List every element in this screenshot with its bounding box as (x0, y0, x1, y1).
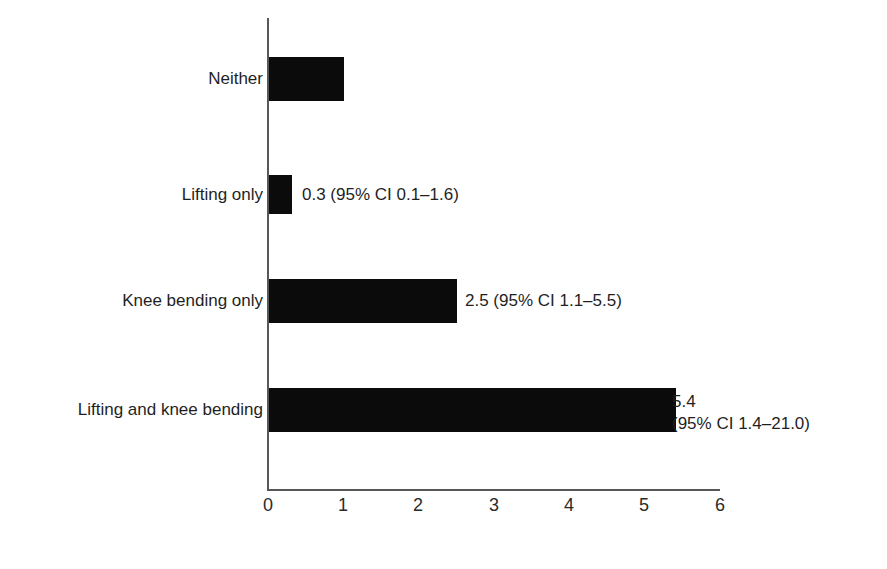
bar-label-lifting-only: Lifting only (182, 185, 263, 205)
xtick-2: 2 (398, 494, 438, 516)
xtick-4: 4 (549, 494, 589, 516)
bar-label-lifting-and-knee-bending: Lifting and knee bending (78, 400, 263, 420)
bar-value-knee-bending-only: 2.5 (95% CI 1.1–5.5) (465, 290, 622, 311)
bar-label-neither: Neither (208, 69, 263, 89)
bar-chart: Neither Lifting only 0.3 (95% CI 0.1–1.6… (0, 0, 887, 569)
bar-label-knee-bending-only: Knee bending only (122, 291, 263, 311)
xtick-1: 1 (323, 494, 363, 516)
bar-neither (269, 57, 344, 101)
xtick-3: 3 (474, 494, 514, 516)
bar-value-lifting-only: 0.3 (95% CI 0.1–1.6) (302, 184, 459, 205)
xtick-0: 0 (248, 494, 288, 516)
xtick-6: 6 (700, 494, 740, 516)
bar-knee-bending-only (269, 279, 457, 323)
xtick-5: 5 (624, 494, 664, 516)
bar-value-lifting-and-knee-bending-line2: (95% CI 1.4–21.0) (672, 413, 810, 434)
bar-lifting-only (269, 175, 292, 214)
plot-area: Neither Lifting only 0.3 (95% CI 0.1–1.6… (0, 0, 887, 569)
bar-value-lifting-and-knee-bending-line1: 5.4 (672, 391, 696, 412)
x-axis-line (267, 489, 720, 491)
bar-lifting-and-knee-bending (269, 388, 676, 432)
